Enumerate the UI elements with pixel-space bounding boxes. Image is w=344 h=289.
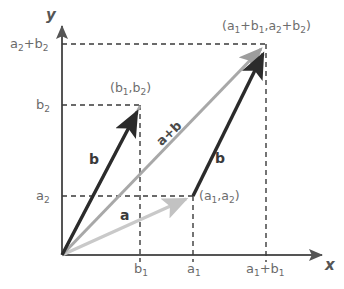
vector-label-b-left: b	[89, 152, 99, 166]
y-tick-b2-sub: 2	[44, 104, 50, 114]
y-tick-a2b2-part1: a	[10, 36, 18, 51]
y-axis-label: y	[46, 8, 56, 23]
point-a-part2: a	[221, 188, 229, 203]
point-b-part1: b	[115, 80, 123, 95]
y-tick-label-a2-plus-b2: a2+b2	[10, 37, 49, 50]
point-sum-sub1: 1	[235, 25, 241, 35]
point-a-sub2: 2	[229, 195, 235, 205]
vector-label-b-right: b	[215, 151, 225, 165]
point-sum-sub3: 2	[276, 25, 282, 35]
y-tick-a2b2-sub2: 2	[43, 43, 49, 53]
point-label-a: (a1,a2)	[199, 190, 240, 203]
point-a-part1: a	[204, 188, 212, 203]
x-tick-a1b1-sub1: 1	[254, 268, 260, 278]
point-label-b: (b1,b2)	[110, 82, 151, 95]
point-sum-mid2: +b	[282, 18, 300, 33]
x-tick-label-b1: b1	[134, 262, 148, 275]
vector-addition-diagram: y x a2+b2 b2 a2 b1 a1 a1+b1 (b1,b2) (a1,…	[0, 0, 344, 289]
point-b-close: )	[146, 80, 151, 95]
point-label-a-plus-b: (a1+b1,a2+b2)	[222, 20, 311, 33]
y-tick-a2b2-mid: +b	[24, 36, 43, 51]
y-tick-a2-base: a	[36, 188, 44, 203]
vector-b-translated	[193, 54, 263, 196]
x-tick-label-a1-plus-b1: a1+b1	[246, 262, 285, 275]
vector-b-from-origin	[62, 112, 137, 255]
point-sum-part2: a	[268, 18, 276, 33]
x-tick-label-a1: a1	[187, 262, 201, 275]
x-tick-a1b1-part1: a	[246, 261, 254, 276]
y-tick-a2-sub: 2	[44, 195, 50, 205]
y-tick-a2b2-sub1: 2	[18, 43, 24, 53]
point-sum-sub4: 2	[300, 25, 306, 35]
x-tick-b1-sub: 1	[142, 268, 148, 278]
point-sum-part1: a	[227, 18, 235, 33]
point-sum-sub2: 1	[259, 25, 265, 35]
x-tick-a1b1-sub2: 1	[279, 268, 285, 278]
x-axis-label: x	[325, 258, 335, 273]
x-tick-a1b1-mid: +b	[260, 261, 279, 276]
vector-label-a: a	[120, 208, 129, 222]
point-a-sub1: 1	[212, 195, 218, 205]
y-tick-label-b2: b2	[36, 98, 50, 111]
point-sum-mid1: +b	[240, 18, 258, 33]
x-tick-a1-base: a	[187, 261, 195, 276]
point-a-close: )	[235, 188, 240, 203]
point-b-sub2: 2	[140, 87, 146, 97]
x-tick-a1-sub: 1	[195, 268, 201, 278]
point-sum-close: )	[306, 18, 311, 33]
point-b-sub1: 1	[123, 87, 129, 97]
y-tick-label-a2: a2	[36, 189, 50, 202]
diagram-canvas	[0, 0, 344, 289]
